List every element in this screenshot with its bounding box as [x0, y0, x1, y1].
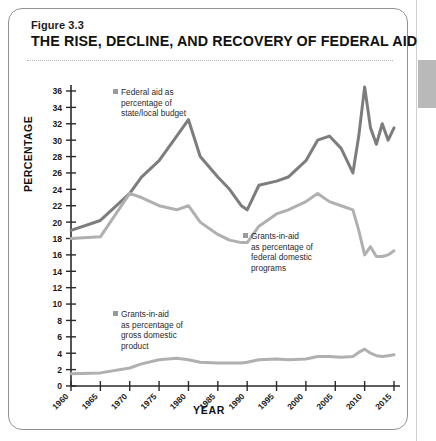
legend-line-3: federal domestic	[251, 252, 312, 262]
chart-plot-area: 024681012141618202224262830323436 196019…	[9, 9, 409, 431]
svg-text:20: 20	[52, 218, 62, 228]
svg-text:1975: 1975	[138, 391, 158, 411]
svg-text:10: 10	[52, 299, 62, 309]
svg-text:6: 6	[57, 332, 62, 342]
page-edge-rule	[416, 0, 417, 441]
legend-line-3: gross domestic	[121, 330, 177, 340]
line-chart-svg: 024681012141618202224262830323436 196019…	[9, 9, 409, 431]
legend-swatch-icon	[113, 89, 118, 94]
svg-text:0: 0	[57, 381, 62, 391]
svg-text:2005: 2005	[314, 391, 334, 411]
legend-grants-federal-domestic: Grants-in-aid as percentage of federal d…	[243, 231, 347, 273]
svg-text:1985: 1985	[197, 391, 217, 411]
svg-text:4: 4	[57, 349, 62, 359]
svg-text:28: 28	[52, 152, 62, 162]
legend-line-1: Grants-in-aid	[121, 309, 169, 319]
legend-line-1: Federal aid as	[121, 87, 174, 97]
svg-text:24: 24	[52, 185, 62, 195]
svg-text:1980: 1980	[168, 391, 188, 411]
svg-text:1995: 1995	[256, 391, 276, 411]
legend-swatch-icon	[243, 233, 248, 238]
svg-text:1960: 1960	[50, 391, 70, 411]
legend-swatch-icon	[113, 311, 118, 316]
svg-text:2015: 2015	[373, 391, 393, 411]
legend-line-2: as percentage of	[121, 320, 183, 330]
legend-line-4: product	[121, 341, 149, 351]
svg-text:18: 18	[52, 234, 62, 244]
svg-text:36: 36	[52, 86, 62, 96]
x-axis: 1960196519701975198019851990199520002005…	[50, 381, 400, 412]
svg-text:30: 30	[52, 136, 62, 146]
page-edge-tab	[418, 60, 436, 108]
svg-text:8: 8	[57, 316, 62, 326]
legend-line-4: programs	[251, 263, 286, 273]
figure-card: Figure 3.3 THE RISE, DECLINE, AND RECOVE…	[8, 8, 408, 430]
legend-line-3: state/local budget	[121, 108, 186, 118]
svg-text:2000: 2000	[285, 391, 305, 411]
svg-text:2010: 2010	[344, 391, 364, 411]
legend-federal-aid-state-local: Federal aid as percentage of state/local…	[113, 87, 219, 119]
figure-page: Figure 3.3 THE RISE, DECLINE, AND RECOVE…	[0, 0, 436, 441]
legend-line-1: Grants-in-aid	[251, 231, 299, 241]
svg-text:34: 34	[52, 103, 62, 113]
legend-grants-gdp: Grants-in-aid as percentage of gross dom…	[113, 309, 219, 351]
legend-line-2: as percentage of	[251, 242, 313, 252]
svg-text:22: 22	[52, 201, 62, 211]
svg-text:14: 14	[52, 267, 62, 277]
svg-text:12: 12	[52, 283, 62, 293]
svg-text:16: 16	[52, 250, 62, 260]
svg-text:1965: 1965	[80, 391, 100, 411]
legend-line-2: percentage of	[121, 98, 172, 108]
svg-text:1970: 1970	[109, 391, 129, 411]
svg-text:32: 32	[52, 119, 62, 129]
svg-text:1990: 1990	[226, 391, 246, 411]
svg-text:26: 26	[52, 168, 62, 178]
svg-text:2: 2	[57, 365, 62, 375]
